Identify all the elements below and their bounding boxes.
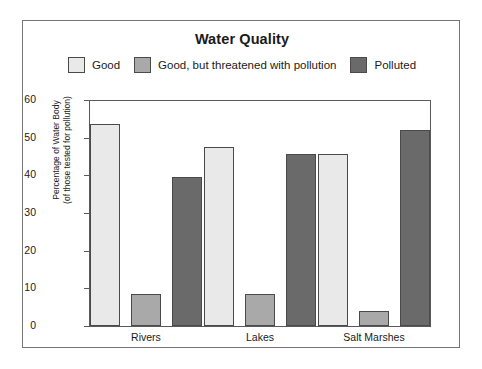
bar-rivers-good	[90, 124, 120, 326]
y-axis-tick-label: 50	[0, 131, 36, 143]
y-axis-tick-label: 20	[0, 244, 36, 256]
bar-lakes-good	[204, 147, 234, 326]
bar-rivers-good	[131, 294, 161, 326]
x-axis-label-lakes: Lakes	[203, 331, 317, 343]
x-axis-label-rivers: Rivers	[89, 331, 203, 343]
y-axis-title-line1: Percentage of Water Body	[51, 55, 62, 245]
x-axis-label-salt-marshes: Salt Marshes	[317, 331, 431, 343]
y-axis-tick-label: 0	[0, 319, 36, 331]
y-axis-title: Percentage of Water Body (of those teste…	[51, 55, 73, 245]
y-axis-tick	[84, 326, 89, 327]
plot-area: Percentage of Water Body (of those teste…	[23, 21, 461, 349]
bar-rivers-polluted	[172, 177, 202, 326]
bar-salt-marshes-good	[318, 154, 348, 327]
y-axis-tick-label: 30	[0, 206, 36, 218]
x-axis-line	[89, 326, 431, 327]
y-axis-tick-label: 10	[0, 281, 36, 293]
bar-lakes-polluted	[286, 154, 316, 327]
chart-frame: Water Quality GoodGood, but threatened w…	[22, 20, 460, 348]
chart-screenshot: Water Quality GoodGood, but threatened w…	[0, 0, 482, 369]
y-axis-title-line2: (of those tested for pollution)	[62, 55, 73, 245]
bar-lakes-good	[245, 294, 275, 326]
bar-salt-marshes-good	[359, 311, 389, 326]
bar-salt-marshes-polluted	[400, 130, 430, 326]
y-axis-tick-label: 40	[0, 168, 36, 180]
y-axis-tick-label: 60	[0, 93, 36, 105]
bars-container	[89, 100, 431, 326]
